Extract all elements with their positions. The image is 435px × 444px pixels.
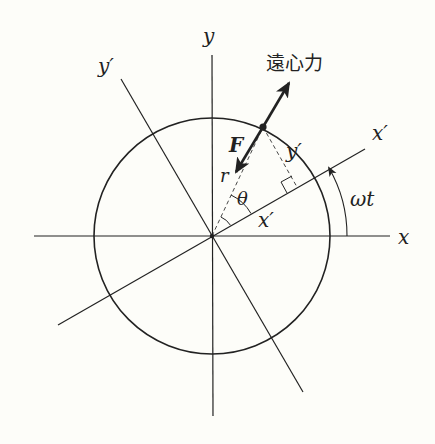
theta-arc xyxy=(221,217,231,225)
x-prime-component-label: x′ xyxy=(258,208,274,232)
x-prime-axis-label: x′ xyxy=(372,121,388,145)
diagram-canvas: x y x′ y′ y′ x′ r θ ωt F 遠心力 xyxy=(0,0,435,444)
omega-t-label: ωt xyxy=(350,187,375,211)
mass-point xyxy=(259,123,266,130)
y-prime-component-label: y′ xyxy=(285,139,302,163)
right-angle-marker xyxy=(281,176,292,193)
origin-point xyxy=(210,234,214,238)
radius-label: r xyxy=(220,165,230,186)
force-label: F xyxy=(228,133,245,157)
centrifugal-force-arrow xyxy=(263,83,289,127)
centrifugal-force-label: 遠心力 xyxy=(266,52,323,74)
theta-label: θ xyxy=(237,188,248,209)
y-prime-axis-label: y′ xyxy=(97,54,114,78)
rotation-angle-arc xyxy=(329,168,347,236)
x-axis-label: x xyxy=(398,225,409,249)
y-axis-label: y xyxy=(202,24,215,48)
